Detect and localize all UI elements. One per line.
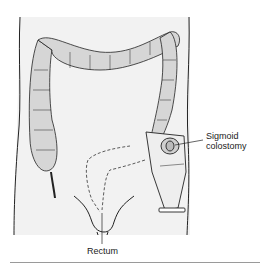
sigmoid-label-line2: colostomy [206,141,247,151]
sigmoid-label-line1: Sigmoid [206,131,247,141]
sigmoid-colostomy-label: Sigmoid colostomy [206,131,247,151]
rectum-label: Rectum [87,246,118,256]
bottom-divider [10,262,260,263]
